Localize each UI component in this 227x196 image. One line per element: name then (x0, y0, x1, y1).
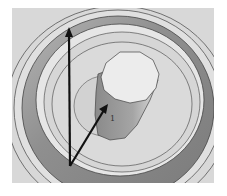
figure-panel (6, 6, 227, 196)
vector-label: 1 (110, 114, 115, 123)
diagram (0, 0, 227, 196)
